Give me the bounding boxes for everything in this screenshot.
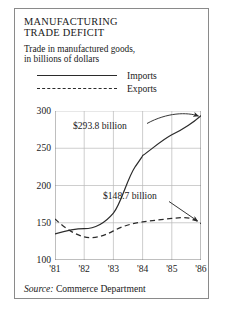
y-tick-label-250: 250 xyxy=(37,143,51,153)
annotation-label-exports: $148.7 billion xyxy=(103,191,157,201)
series-line-imports xyxy=(55,116,201,234)
figure-header: MANUFACTURING TRADE DEFICIT Trade in man… xyxy=(24,16,201,65)
chart-subtitle: Trade in manufactured goods, in billions… xyxy=(24,44,201,65)
x-tick-label-82: '82 xyxy=(79,264,90,274)
x-tick-label-86: '86 xyxy=(195,264,206,274)
source-label: Source: xyxy=(24,283,53,294)
legend-swatch-solid-line-icon xyxy=(37,75,117,76)
legend-item-exports: Exports xyxy=(37,82,197,95)
x-tick-label-85: '85 xyxy=(166,264,177,274)
y-tick-label-200: 200 xyxy=(37,181,51,191)
plot-area: 300 250 200 150 100 '81 '82 '83 '84 '85 … xyxy=(55,111,201,260)
legend-label-exports: Exports xyxy=(127,82,157,95)
chart-legend: Imports Exports xyxy=(37,69,197,95)
y-tick-label-300: 300 xyxy=(37,106,51,116)
x-tick-label-81: '81 xyxy=(49,264,60,274)
annotation-label-imports: $293.8 billion xyxy=(73,121,127,131)
legend-swatch-dashed-line-icon xyxy=(37,88,117,89)
x-tick-label-83: '83 xyxy=(108,264,119,274)
annotation-arrow-imports xyxy=(147,114,199,124)
annotation-arrow-exports xyxy=(169,202,198,222)
legend-label-imports: Imports xyxy=(127,69,157,82)
x-tick-label-84: '84 xyxy=(137,264,148,274)
series-line-exports xyxy=(55,218,201,238)
source-text: Commerce Department xyxy=(56,283,146,294)
legend-item-imports: Imports xyxy=(37,69,197,82)
source-note: Source: Commerce Department xyxy=(24,283,146,294)
y-tick-label-150: 150 xyxy=(37,218,51,228)
chart-title: MANUFACTURING TRADE DEFICIT xyxy=(24,16,201,39)
chart-canvas xyxy=(55,111,201,260)
chart-figure: MANUFACTURING TRADE DEFICIT Trade in man… xyxy=(14,8,209,299)
